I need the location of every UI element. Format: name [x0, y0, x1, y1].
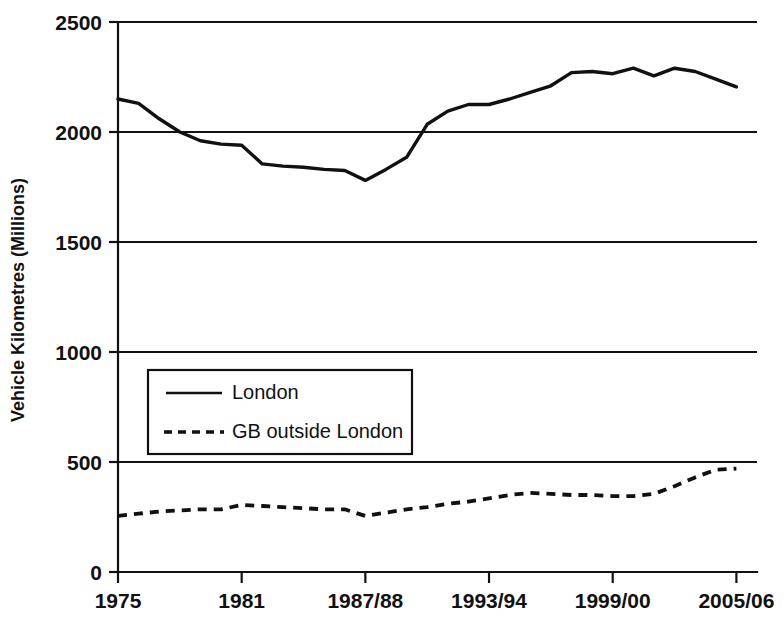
- x-tick-label: 1987/88: [327, 589, 403, 612]
- y-axis: 05001000150020002500: [55, 11, 757, 584]
- series-line-gb-outside-london: [118, 469, 736, 516]
- y-tick-label: 1000: [55, 341, 102, 364]
- y-tick-label: 500: [67, 451, 102, 474]
- y-tick-label: 2000: [55, 121, 102, 144]
- legend-label-london: London: [232, 381, 299, 403]
- y-tick-label: 0: [90, 561, 102, 584]
- x-axis: 197519811987/881993/941999/002005/06: [95, 572, 775, 612]
- x-tick-label: 1993/94: [451, 589, 527, 612]
- y-tick-label: 1500: [55, 231, 102, 254]
- line-chart: Vehicle Kilometres (Millions) 0500100015…: [0, 0, 784, 633]
- chart-legend: London GB outside London: [148, 370, 412, 454]
- series-line-london: [118, 68, 736, 180]
- chart-container: Vehicle Kilometres (Millions) 0500100015…: [0, 0, 784, 633]
- x-tick-label: 1999/00: [575, 589, 651, 612]
- x-tick-label: 2005/06: [698, 589, 774, 612]
- x-tick-label: 1981: [218, 589, 265, 612]
- x-tick-label: 1975: [95, 589, 142, 612]
- y-tick-label: 2500: [55, 11, 102, 34]
- y-axis-title: Vehicle Kilometres (Millions): [8, 178, 28, 422]
- legend-label-gb-outside-london: GB outside London: [232, 420, 403, 442]
